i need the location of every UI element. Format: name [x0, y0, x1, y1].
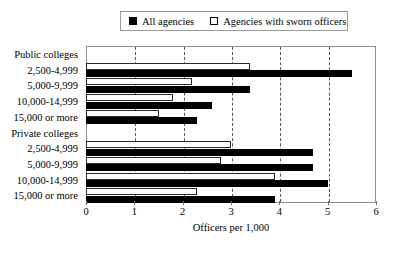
- bar-row: [86, 77, 376, 93]
- filled-square-icon: [129, 17, 137, 25]
- bar-row: [86, 109, 376, 125]
- x-axis-tick-label: 1: [132, 205, 137, 219]
- x-axis-tick-mark: [86, 201, 87, 205]
- x-axis-tick-label: 3: [228, 205, 233, 219]
- bar-agencies-with-sworn-officers: [86, 188, 197, 195]
- bar-row: [86, 156, 376, 172]
- chart-legend: All agencies Agencies with sworn officer…: [120, 11, 348, 31]
- x-axis-tick-mark: [328, 201, 329, 205]
- x-axis-tick-mark: [279, 201, 280, 205]
- legend-entry-agencies-with-sworn-officers: Agencies with sworn officers: [210, 16, 346, 27]
- bar-all-agencies: [86, 102, 212, 109]
- bar-row: [86, 140, 376, 156]
- legend-label-agencies-with-sworn-officers: Agencies with sworn officers: [223, 16, 346, 27]
- bar-all-agencies: [86, 196, 275, 203]
- legend-entry-all-agencies: All agencies: [129, 16, 194, 27]
- hollow-square-icon: [210, 17, 218, 25]
- x-axis-ticks: 0123456: [86, 205, 376, 219]
- group-header-row: [86, 125, 376, 141]
- x-axis-tick-label: 2: [180, 205, 185, 219]
- bar-all-agencies: [86, 117, 197, 124]
- x-axis-tick-mark: [376, 201, 377, 205]
- bar-agencies-with-sworn-officers: [86, 110, 159, 117]
- bar-row: [86, 172, 376, 188]
- bar-row: [86, 93, 376, 109]
- y-axis-labels: Public colleges2,500-4,9995,000-9,99910,…: [0, 46, 82, 203]
- bar-all-agencies: [86, 86, 250, 93]
- x-axis-tick-label: 5: [325, 205, 330, 219]
- y-axis-category-label: 15,000 or more: [0, 187, 82, 204]
- bar-rows: [86, 46, 376, 203]
- bar-agencies-with-sworn-officers: [86, 173, 275, 180]
- x-axis-title: Officers per 1,000: [86, 222, 376, 233]
- bar-agencies-with-sworn-officers: [86, 141, 231, 148]
- x-axis-tick-mark: [231, 201, 232, 205]
- bar-all-agencies: [86, 180, 328, 187]
- bar-agencies-with-sworn-officers: [86, 63, 250, 70]
- x-axis-tick-mark: [134, 201, 135, 205]
- bar-all-agencies: [86, 70, 352, 77]
- bar-all-agencies: [86, 149, 313, 156]
- x-axis-tick-label: 0: [83, 205, 88, 219]
- bar-agencies-with-sworn-officers: [86, 94, 173, 101]
- bar-agencies-with-sworn-officers: [86, 78, 192, 85]
- x-axis-tick-mark: [183, 201, 184, 205]
- x-axis-tick-label: 4: [277, 205, 282, 219]
- bar-agencies-with-sworn-officers: [86, 157, 221, 164]
- x-axis-tick-label: 6: [373, 205, 378, 219]
- legend-label-all-agencies: All agencies: [142, 16, 194, 27]
- bar-all-agencies: [86, 164, 313, 171]
- bar-row: [86, 62, 376, 78]
- group-header-row: [86, 46, 376, 62]
